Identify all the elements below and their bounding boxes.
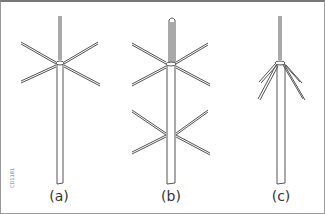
figure-frame: CD1181 (a) (b) (c) bbox=[0, 0, 325, 214]
label-b: (b) bbox=[151, 188, 191, 204]
antenna-c bbox=[258, 16, 305, 184]
label-c: (c) bbox=[261, 188, 301, 204]
antenna-drawings bbox=[1, 2, 325, 214]
antenna-a bbox=[21, 16, 100, 184]
figure-code: CD1181 bbox=[9, 168, 15, 188]
label-a: (a) bbox=[39, 188, 79, 204]
antenna-b bbox=[132, 18, 210, 184]
